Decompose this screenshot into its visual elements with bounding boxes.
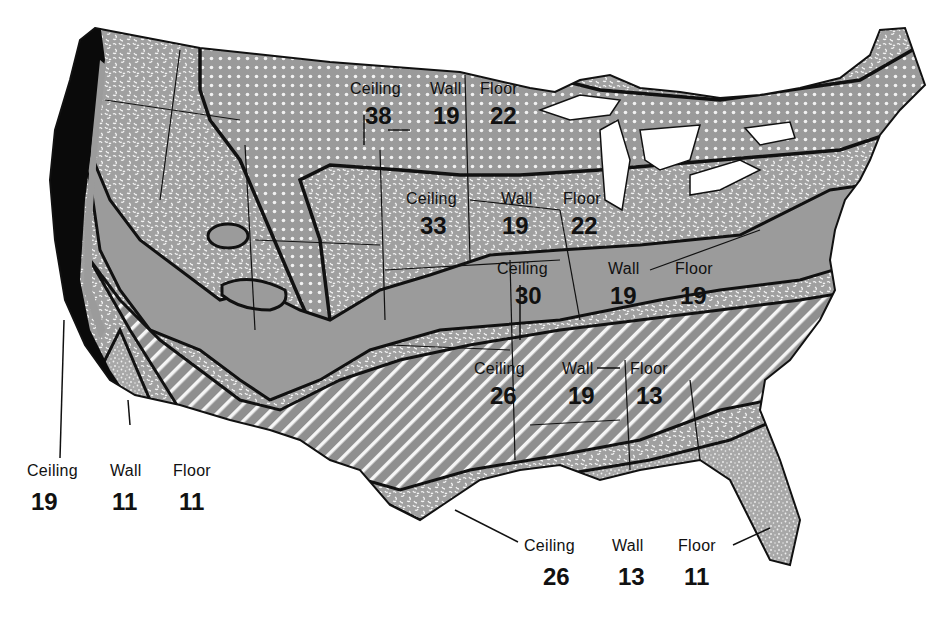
ceiling-value: 19 — [31, 488, 58, 515]
floor-value: 11 — [179, 488, 204, 515]
ceiling-header: Ceiling — [406, 190, 457, 207]
ceiling-value: 26 — [490, 382, 517, 409]
ceiling-value: 26 — [543, 563, 570, 590]
floor-value: 13 — [636, 382, 663, 409]
wall-value: 19 — [433, 102, 460, 129]
floor-value: 22 — [571, 212, 598, 239]
wall-header: Wall — [430, 80, 462, 97]
wall-header: Wall — [612, 537, 644, 554]
floor-header: Floor — [173, 462, 211, 479]
floor-header: Floor — [678, 537, 716, 554]
wall-value: 11 — [112, 488, 137, 515]
ceiling-header: Ceiling — [497, 260, 548, 277]
ceiling-header: Ceiling — [474, 360, 525, 377]
floor-header: Floor — [630, 360, 668, 377]
wall-value: 19 — [502, 212, 529, 239]
wall-header: Wall — [501, 190, 533, 207]
wall-value: 19 — [610, 282, 637, 309]
insulation-zone-map — [0, 0, 945, 617]
floor-value: 22 — [490, 102, 517, 129]
ceiling-value: 30 — [515, 282, 542, 309]
wall-value: 13 — [618, 563, 645, 590]
ceiling-value: 33 — [420, 212, 447, 239]
wall-value: 19 — [568, 382, 595, 409]
ceiling-header: Ceiling — [27, 462, 78, 479]
floor-header: Floor — [675, 260, 713, 277]
floor-header: Floor — [480, 80, 518, 97]
map-land — [0, 0, 945, 617]
ceiling-header: Ceiling — [524, 537, 575, 554]
floor-header: Floor — [563, 190, 601, 207]
ceiling-value: 38 — [365, 102, 392, 129]
wall-header: Wall — [562, 360, 594, 377]
floor-value: 19 — [680, 282, 707, 309]
wall-header: Wall — [608, 260, 640, 277]
wall-header: Wall — [110, 462, 142, 479]
ceiling-header: Ceiling — [350, 80, 401, 97]
floor-value: 11 — [684, 563, 709, 590]
